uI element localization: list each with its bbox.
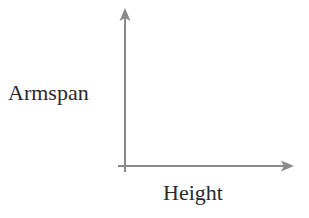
y-axis <box>120 8 131 172</box>
axes-diagram <box>0 0 309 218</box>
x-axis-label: Height <box>163 180 223 206</box>
x-axis <box>118 161 294 172</box>
y-axis-label: Armspan <box>8 80 89 106</box>
